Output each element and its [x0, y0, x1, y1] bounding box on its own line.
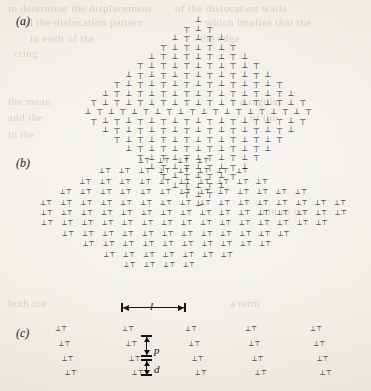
figure-page: to determine the displacemented the disl…	[0, 0, 371, 391]
dimension-arrow-l-right	[178, 305, 184, 311]
dislocation-dipole-b: ⊥⊤	[178, 179, 190, 186]
dislocation-dipole-b: ⊥⊤	[99, 168, 111, 175]
dislocation-symbol-a: ⊥	[288, 90, 295, 98]
dislocation-dipole-b: ⊥⊤	[220, 241, 232, 248]
dislocation-symbol-a: ⊥	[172, 99, 179, 107]
dislocation-dipole-b: ⊥⊤	[198, 179, 210, 186]
dislocation-dipole-b: ⊥⊤	[295, 200, 307, 207]
dislocation-symbol-a: ⊥	[218, 34, 225, 42]
dislocation-symbol-a: ⊥	[294, 108, 301, 116]
dislocation-dipole-b: ⊥⊤	[159, 189, 171, 196]
dislocation-dipole-c: ⊥⊤	[245, 326, 257, 333]
dislocation-dipole-b: ⊥⊤	[276, 200, 288, 207]
dislocation-symbol-a: ⊥	[195, 44, 202, 52]
dislocation-dipole-b: ⊥⊤	[178, 168, 190, 175]
dislocation-symbol-a: ⊥	[149, 62, 156, 70]
dislocation-dipole-c: ⊥⊤	[65, 370, 77, 377]
dislocation-dipole-b: ⊥⊤	[40, 200, 52, 207]
dislocation-dipole-b: ⊥⊤	[62, 231, 74, 238]
dislocation-dipole-b: ⊥⊤	[83, 241, 95, 248]
dislocation-dipole-c: ⊥⊤	[191, 356, 203, 363]
dislocation-symbol-a: ⊥	[195, 34, 202, 42]
dislocation-dipole-b: ⊥⊤	[122, 231, 134, 238]
dimension-tick-p-bottom	[141, 355, 152, 356]
dislocation-symbol-a: ⊤	[230, 128, 237, 136]
dislocation-symbol-a: ⊥	[149, 99, 156, 107]
dislocation-symbol-a: ⊥	[172, 62, 179, 70]
dislocation-symbol-a: ⊥	[265, 136, 272, 144]
dislocation-dipole-c: ⊥⊤	[128, 356, 140, 363]
dislocation-dipole-b: ⊥⊤	[142, 231, 154, 238]
dislocation-dipole-b: ⊥⊤	[100, 200, 112, 207]
dislocation-dipole-b: ⊥⊤	[41, 210, 53, 217]
dislocation-dipole-b: ⊥⊤	[82, 231, 94, 238]
dislocation-symbol-a: ⊥	[241, 53, 248, 61]
dislocation-symbol-a: ⊤	[253, 63, 260, 71]
dislocation-symbol-a: ⊥	[265, 90, 272, 98]
dimension-arrow-d-up	[144, 361, 150, 366]
dislocation-dipole-b: ⊥⊤	[239, 231, 251, 238]
dislocation-symbol-a: ⊥	[218, 136, 225, 144]
dislocation-symbol-a: ⊤	[230, 137, 237, 145]
dislocation-symbol-a: ⊤	[230, 54, 237, 62]
dislocation-dipole-b: ⊥⊤	[237, 179, 249, 186]
dislocation-dipole-c: ⊥⊤	[313, 341, 325, 348]
dislocation-dipole-b: ⊥⊤	[41, 220, 53, 227]
dislocation-dipole-b: ⊥⊤	[61, 220, 73, 227]
dislocation-dipole-b: ⊥⊤	[202, 252, 214, 259]
dislocation-dipole-b: ⊥⊤	[159, 179, 171, 186]
dislocation-symbol-a: ⊥	[218, 90, 225, 98]
dislocation-dipole-b: ⊥⊤	[257, 210, 269, 217]
dislocation-symbol-a: ⊤	[183, 137, 190, 145]
dimension-line-l	[122, 307, 185, 308]
dislocation-symbol-a: ⊥	[195, 16, 202, 24]
dislocation-symbol-a: ⊤	[230, 91, 237, 99]
dislocation-symbol-a: ⊥	[195, 71, 202, 79]
dislocation-dipole-b: ⊥⊤	[143, 252, 155, 259]
dislocation-dipole-b: ⊥⊤	[140, 189, 152, 196]
dislocation-dipole-c: ⊥⊤	[55, 326, 67, 333]
dislocation-dipole-b: ⊥⊤	[81, 220, 93, 227]
dislocation-symbol-a: ⊥	[85, 108, 92, 116]
dislocation-dipole-b: ⊥⊤	[221, 252, 233, 259]
dislocation-dipole-b: ⊥⊤	[258, 231, 270, 238]
dislocation-symbol-a: ⊥	[149, 71, 156, 79]
dislocation-symbol-a: ⊥	[149, 136, 156, 144]
dimension-arrow-p-up	[144, 337, 150, 342]
dislocation-symbol-a: ⊥	[172, 136, 179, 144]
dislocation-symbol-a: ⊤	[207, 128, 214, 136]
dislocation-dipole-b: ⊥⊤	[316, 220, 328, 227]
dislocation-symbol-a: ⊥	[178, 108, 185, 116]
dislocation-symbol-a: ⊥	[241, 62, 248, 70]
dislocation-dipole-b: ⊥⊤	[120, 200, 132, 207]
dislocation-dipole-b: ⊥⊤	[179, 200, 191, 207]
dislocation-dipole-b: ⊥⊤	[314, 200, 326, 207]
dislocation-symbol-a: ⊤	[276, 100, 283, 108]
dislocation-symbol-a: ⊥	[288, 117, 295, 125]
dimension-label-p: p	[154, 344, 160, 356]
dislocation-symbol-a: ⊥	[241, 90, 248, 98]
dislocation-symbol-a: ⊥	[149, 80, 156, 88]
dislocation-symbol-a: ⊤	[207, 27, 214, 35]
dislocation-symbol-a: ⊤	[183, 128, 190, 136]
dislocation-symbol-a: ⊥	[288, 126, 295, 134]
dislocation-dipole-b: ⊥⊤	[160, 210, 172, 217]
dislocation-symbol-a: ⊤	[253, 128, 260, 136]
dimension-arrow-l-left	[123, 305, 129, 311]
dislocation-dipole-b: ⊥⊤	[120, 189, 132, 196]
dislocation-symbol-a: ⊤	[183, 73, 190, 81]
dislocation-dipole-b: ⊥⊤	[259, 241, 271, 248]
dislocation-dipole-b: ⊥⊤	[256, 179, 268, 186]
dislocation-dipole-b: ⊥⊤	[181, 220, 193, 227]
dislocation-dipole-b: ⊥⊤	[197, 168, 209, 175]
dislocation-dipole-b: ⊥⊤	[123, 262, 135, 269]
dislocation-dipole-b: ⊥⊤	[275, 189, 287, 196]
dislocation-symbol-a: ⊤	[299, 119, 306, 127]
dislocation-symbol-a: ⊥	[172, 53, 179, 61]
dislocation-dipole-b: ⊥⊤	[296, 220, 308, 227]
dislocation-symbol-a: ⊥	[149, 53, 156, 61]
dislocation-symbol-a: ⊤	[207, 36, 214, 44]
dislocation-symbol-a: ⊥	[265, 126, 272, 134]
dislocation-symbol-a: ⊥	[195, 90, 202, 98]
dislocation-dipole-b: ⊥⊤	[79, 179, 91, 186]
